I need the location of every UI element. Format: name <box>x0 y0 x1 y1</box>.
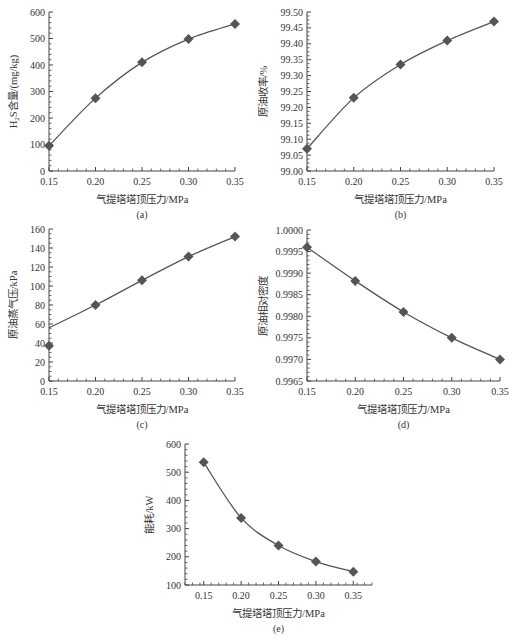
panel-label: (b) <box>395 209 407 221</box>
y-tick-label: 40 <box>35 338 45 349</box>
x-tick-label: 0.35 <box>345 590 363 601</box>
y-tick-label: 0.9970 <box>276 354 304 365</box>
panel-label: (c) <box>136 419 147 431</box>
y-tick-label: 20 <box>35 357 45 368</box>
y-tick-label: 99.50 <box>281 7 304 18</box>
y-tick-label: 0.9985 <box>276 289 304 300</box>
x-tick-label: 0.20 <box>347 386 365 397</box>
x-tick-label: 0.25 <box>270 590 288 601</box>
chart-a: 01002003004005006000.150.200.250.300.35气… <box>7 7 244 222</box>
diamond-marker-icon <box>137 57 147 67</box>
y-tick-label: 0 <box>40 376 45 387</box>
diamond-marker-icon <box>137 275 147 285</box>
y-tick-label: 100 <box>166 580 181 591</box>
x-axis-title: 气提塔塔顶压力/MPa <box>96 403 189 415</box>
diamond-marker-icon <box>396 59 406 69</box>
y-axis-title: 能耗/kW <box>143 495 155 533</box>
y-axis-title: H2S含量/(mg/kg) <box>7 54 21 128</box>
x-tick-label: 0.25 <box>392 176 410 187</box>
y-tick-label: 400 <box>166 495 181 506</box>
x-tick-label: 0.25 <box>395 386 413 397</box>
y-tick-label: 0.9995 <box>276 246 304 257</box>
y-tick-label: 99.10 <box>281 134 304 145</box>
y-tick-label: 140 <box>30 243 45 254</box>
y-tick-label: 99.05 <box>281 150 304 161</box>
diamond-marker-icon <box>184 252 194 262</box>
x-axis-title: 气提塔塔顶压力/MPa <box>96 193 189 205</box>
x-tick-label: 0.15 <box>195 590 213 601</box>
x-tick-label: 0.30 <box>180 386 198 397</box>
diamond-marker-icon <box>447 333 457 343</box>
diamond-marker-icon <box>489 17 499 27</box>
y-tick-label: 160 <box>30 224 45 235</box>
y-tick-label: 99.30 <box>281 70 304 81</box>
data-line <box>307 22 494 149</box>
diamond-marker-icon <box>230 19 240 29</box>
y-tick-label: 99.15 <box>281 118 304 129</box>
y-tick-label: 99.40 <box>281 38 304 49</box>
chart-d: 0.99650.99700.99750.99800.99850.99900.99… <box>257 225 509 432</box>
y-tick-label: 600 <box>166 439 181 450</box>
diamond-marker-icon <box>399 307 409 317</box>
x-tick-label: 0.35 <box>491 386 509 397</box>
x-tick-label: 0.20 <box>87 386 105 397</box>
y-tick-label: 80 <box>35 300 45 311</box>
x-tick-label: 0.15 <box>40 176 58 187</box>
y-tick-label: 300 <box>30 86 45 97</box>
y-tick-label: 500 <box>166 467 181 478</box>
y-tick-label: 0 <box>40 166 45 177</box>
y-tick-label: 100 <box>30 281 45 292</box>
figure: 01002003004005006000.150.200.250.300.35气… <box>0 0 515 642</box>
diamond-marker-icon <box>91 300 101 310</box>
diamond-marker-icon <box>302 242 312 252</box>
y-tick-label: 99.45 <box>281 22 304 33</box>
figure-caption-faded <box>0 632 515 642</box>
y-tick-label: 0.9975 <box>276 332 304 343</box>
y-axis-title: 原油相对密度 <box>257 275 269 336</box>
y-tick-label: 200 <box>166 551 181 562</box>
diamond-marker-icon <box>199 457 209 467</box>
y-tick-label: 1.0000 <box>276 225 304 236</box>
diamond-marker-icon <box>184 34 194 44</box>
diamond-marker-icon <box>348 567 358 577</box>
x-tick-label: 0.30 <box>180 176 198 187</box>
diamond-marker-icon <box>230 232 240 242</box>
y-axis-title: 原油收率/% <box>257 65 269 117</box>
y-tick-label: 99.35 <box>281 54 304 65</box>
y-tick-label: 500 <box>30 33 45 44</box>
x-tick-label: 0.30 <box>307 590 325 601</box>
y-tick-label: 0.9965 <box>276 376 304 387</box>
x-tick-label: 0.30 <box>443 386 461 397</box>
panel-label: (a) <box>136 209 147 221</box>
x-tick-label: 0.20 <box>345 176 363 187</box>
x-axis-title: 气提塔塔顶压力/MPa <box>357 403 450 415</box>
chart-b: 99.0099.0599.1099.1599.2099.2599.3099.35… <box>257 7 503 222</box>
x-tick-label: 0.15 <box>298 386 316 397</box>
diamond-marker-icon <box>311 557 321 567</box>
x-tick-label: 0.25 <box>133 386 151 397</box>
y-axis-title: 原油蒸气压/kPa <box>7 270 19 339</box>
y-tick-label: 99.00 <box>281 166 304 177</box>
y-tick-label: 300 <box>166 523 181 534</box>
x-tick-label: 0.35 <box>226 176 244 187</box>
diamond-marker-icon <box>350 276 360 286</box>
y-tick-label: 99.25 <box>281 86 304 97</box>
data-line <box>204 462 354 571</box>
data-line <box>307 247 500 359</box>
x-tick-label: 0.15 <box>40 386 58 397</box>
x-tick-label: 0.35 <box>485 176 503 187</box>
y-tick-label: 60 <box>35 319 45 330</box>
x-axis-title: 气提塔塔顶压力/MPa <box>354 193 447 205</box>
y-tick-label: 400 <box>30 60 45 71</box>
y-tick-label: 100 <box>30 139 45 150</box>
diamond-marker-icon <box>274 541 284 551</box>
panel-label: (d) <box>398 419 410 431</box>
diamond-marker-icon <box>442 36 452 46</box>
x-tick-label: 0.20 <box>87 176 105 187</box>
y-tick-label: 600 <box>30 7 45 18</box>
y-tick-label: 200 <box>30 113 45 124</box>
y-tick-label: 99.20 <box>281 102 304 113</box>
chart-c: 0204060801001201401600.150.200.250.300.3… <box>7 224 244 432</box>
diamond-marker-icon <box>495 354 505 364</box>
figure-svg: 01002003004005006000.150.200.250.300.35气… <box>0 0 515 642</box>
